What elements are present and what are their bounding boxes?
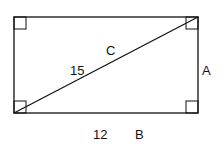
right-angle-mark-top-left bbox=[14, 17, 26, 29]
label-b: B bbox=[135, 127, 144, 142]
label-a: A bbox=[202, 63, 211, 78]
label-12: 12 bbox=[93, 127, 107, 142]
label-c: C bbox=[106, 43, 115, 58]
label-15: 15 bbox=[70, 63, 84, 78]
right-angle-mark-bottom-right bbox=[186, 101, 198, 113]
diagonal-line bbox=[14, 17, 198, 113]
rectangle-diagram: C 15 A 12 B bbox=[0, 0, 224, 146]
